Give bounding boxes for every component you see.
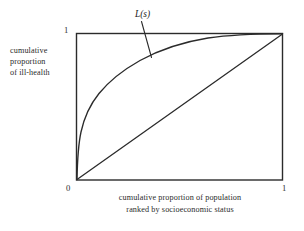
y-axis-label-line-2: proportion — [10, 56, 72, 67]
y-axis-label: cumulative proportion of ill-health — [10, 45, 72, 79]
curve-label-leader-line — [142, 22, 152, 58]
x-axis-label-line-2: ranked by socioeconomic status — [95, 204, 265, 216]
y-axis-label-line-3: of ill-health — [10, 67, 72, 78]
x-axis-label: cumulative proportion of population rank… — [95, 192, 265, 216]
x-axis-label-line-1: cumulative proportion of population — [95, 192, 265, 204]
line-of-equality — [77, 34, 283, 180]
curve-label: L(s) — [135, 9, 150, 20]
y-tick-label-one: 1 — [64, 26, 68, 35]
x-tick-label-one: 1 — [282, 184, 286, 193]
x-tick-label-zero: 0 — [66, 184, 70, 193]
lorenz-curve-figure: L(s) cumulative proportion of ill-health… — [0, 0, 304, 231]
y-axis-label-line-1: cumulative — [10, 45, 72, 56]
